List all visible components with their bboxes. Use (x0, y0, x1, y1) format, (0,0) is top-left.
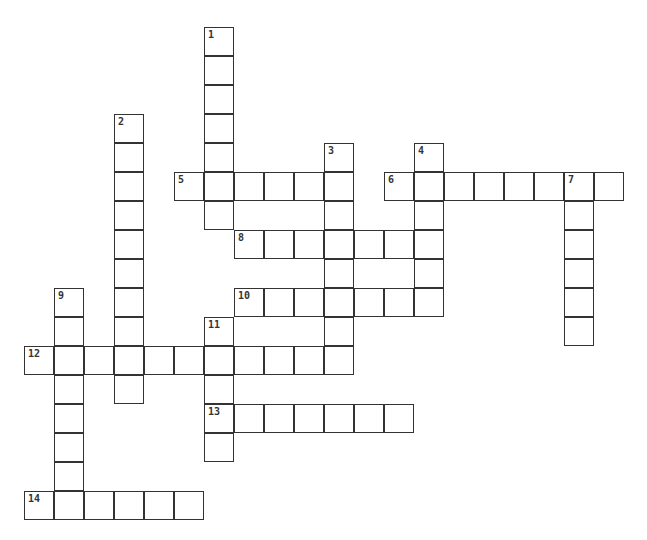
crossword-cell[interactable] (114, 172, 144, 201)
crossword-cell[interactable] (294, 288, 324, 317)
crossword-cell[interactable] (114, 259, 144, 288)
crossword-cell[interactable]: 7 (564, 172, 594, 201)
clue-number: 2 (118, 117, 124, 127)
crossword-cell[interactable] (114, 143, 144, 172)
crossword-cell[interactable] (294, 172, 324, 201)
crossword-cell[interactable] (234, 172, 264, 201)
clue-number: 10 (238, 291, 250, 301)
crossword-cell[interactable] (204, 346, 234, 375)
clue-number: 13 (208, 407, 220, 417)
crossword-cell[interactable] (54, 462, 84, 491)
crossword-cell[interactable]: 2 (114, 114, 144, 143)
crossword-cell[interactable] (414, 288, 444, 317)
crossword-cell[interactable] (234, 404, 264, 433)
clue-number: 9 (58, 291, 64, 301)
crossword-cell[interactable] (324, 288, 354, 317)
crossword-cell[interactable] (564, 317, 594, 346)
crossword-cell[interactable] (324, 259, 354, 288)
crossword-cell[interactable]: 10 (234, 288, 264, 317)
crossword-cell[interactable] (114, 288, 144, 317)
crossword-cell[interactable] (324, 230, 354, 259)
crossword-cell[interactable] (264, 346, 294, 375)
crossword-cell[interactable] (174, 346, 204, 375)
crossword-cell[interactable]: 3 (324, 143, 354, 172)
crossword-cell[interactable] (414, 259, 444, 288)
crossword-cell[interactable] (564, 259, 594, 288)
crossword-cell[interactable]: 6 (384, 172, 414, 201)
crossword-cell[interactable] (54, 317, 84, 346)
crossword-cell[interactable] (204, 85, 234, 114)
crossword-cell[interactable] (474, 172, 504, 201)
crossword-cell[interactable]: 14 (24, 491, 54, 520)
crossword-cell[interactable] (54, 404, 84, 433)
crossword-cell[interactable] (414, 201, 444, 230)
crossword-cell[interactable] (54, 433, 84, 462)
crossword-cell[interactable] (114, 346, 144, 375)
crossword-cell[interactable] (174, 491, 204, 520)
crossword-cell[interactable] (84, 346, 114, 375)
crossword-cell[interactable] (204, 172, 234, 201)
clue-number: 11 (208, 320, 220, 330)
clue-number: 6 (388, 175, 394, 185)
crossword-cell[interactable] (54, 375, 84, 404)
crossword-cell[interactable] (234, 346, 264, 375)
crossword-cell[interactable] (384, 404, 414, 433)
crossword-cell[interactable] (414, 172, 444, 201)
crossword-cell[interactable] (264, 404, 294, 433)
crossword-cell[interactable] (114, 317, 144, 346)
crossword-cell[interactable] (264, 172, 294, 201)
crossword-cell[interactable] (294, 404, 324, 433)
crossword-cell[interactable] (564, 201, 594, 230)
crossword-cell[interactable] (114, 375, 144, 404)
crossword-cell[interactable] (444, 172, 474, 201)
crossword-cell[interactable] (204, 56, 234, 85)
crossword-cell[interactable] (324, 317, 354, 346)
clue-number: 7 (568, 175, 574, 185)
crossword-cell[interactable]: 13 (204, 404, 234, 433)
crossword-cell[interactable] (504, 172, 534, 201)
crossword-cell[interactable]: 12 (24, 346, 54, 375)
crossword-cell[interactable]: 8 (234, 230, 264, 259)
crossword-cell[interactable]: 4 (414, 143, 444, 172)
crossword-cell[interactable] (264, 230, 294, 259)
clue-number: 14 (28, 494, 40, 504)
crossword-cell[interactable] (414, 230, 444, 259)
clue-number: 4 (418, 146, 424, 156)
crossword-cell[interactable]: 11 (204, 317, 234, 346)
crossword-cell[interactable] (84, 491, 114, 520)
crossword-cell[interactable] (324, 201, 354, 230)
crossword-cell[interactable]: 1 (204, 27, 234, 56)
crossword-cell[interactable] (144, 346, 174, 375)
crossword-cell[interactable] (324, 404, 354, 433)
crossword-cell[interactable] (204, 201, 234, 230)
clue-number: 12 (28, 349, 40, 359)
crossword-cell[interactable] (534, 172, 564, 201)
crossword-cell[interactable] (204, 143, 234, 172)
crossword-cell[interactable]: 5 (174, 172, 204, 201)
crossword-cell[interactable] (294, 346, 324, 375)
crossword-cell[interactable] (294, 230, 324, 259)
crossword-cell[interactable] (354, 230, 384, 259)
crossword-cell[interactable] (264, 288, 294, 317)
crossword-cell[interactable] (594, 172, 624, 201)
clue-number: 1 (208, 30, 214, 40)
crossword-cell[interactable] (384, 288, 414, 317)
crossword-cell[interactable] (114, 491, 144, 520)
crossword-cell[interactable] (114, 230, 144, 259)
crossword-cell[interactable] (384, 230, 414, 259)
crossword-cell[interactable]: 9 (54, 288, 84, 317)
crossword-cell[interactable] (354, 288, 384, 317)
crossword-cell[interactable] (114, 201, 144, 230)
crossword-cell[interactable] (564, 288, 594, 317)
crossword-cell[interactable] (54, 346, 84, 375)
crossword-cell[interactable] (204, 433, 234, 462)
crossword-cell[interactable] (354, 404, 384, 433)
crossword-cell[interactable] (564, 230, 594, 259)
crossword-cell[interactable] (324, 346, 354, 375)
crossword-cell[interactable] (204, 375, 234, 404)
crossword-cell[interactable] (324, 172, 354, 201)
clue-number: 3 (328, 146, 334, 156)
crossword-cell[interactable] (54, 491, 84, 520)
crossword-cell[interactable] (204, 114, 234, 143)
crossword-cell[interactable] (144, 491, 174, 520)
